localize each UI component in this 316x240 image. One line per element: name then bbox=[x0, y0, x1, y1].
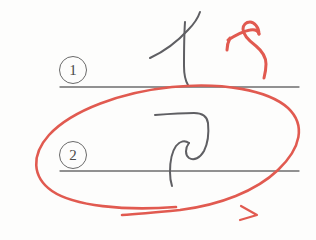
marker-circled-number-2: 2 bbox=[59, 141, 87, 169]
katakana-ka-pencil-stroke-top bbox=[155, 113, 208, 159]
katakana-ka-pencil-glyph bbox=[155, 113, 208, 186]
scene-drawing bbox=[0, 0, 316, 240]
ruled-lines-group bbox=[60, 87, 299, 171]
red-arrowhead bbox=[240, 206, 257, 220]
katakana-ka-red-glyph bbox=[227, 22, 266, 78]
katakana-i-pencil-glyph bbox=[150, 12, 200, 85]
marker-circled-number-1: 1 bbox=[59, 56, 87, 84]
handwriting-canvas: 1 2 bbox=[0, 0, 316, 240]
katakana-i-stroke-diagonal bbox=[150, 12, 200, 58]
